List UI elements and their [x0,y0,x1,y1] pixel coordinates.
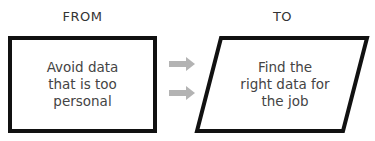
arrow-right-icon [169,57,195,71]
arrow-right-icon [169,86,195,100]
to-text: Find the right data for the job [240,59,329,110]
to-box: Find the right data for the job [215,36,355,133]
